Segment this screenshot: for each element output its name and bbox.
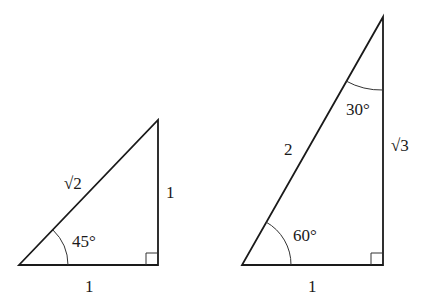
- base-label-right: 1: [308, 277, 317, 296]
- angle-arc-30: [346, 81, 383, 90]
- angle-arc-60: [266, 222, 291, 265]
- vertical-leg-label-left: 1: [166, 183, 175, 202]
- angle-label-45: 45°: [72, 232, 96, 251]
- angle-label-30: 30°: [346, 100, 370, 119]
- base-label-left: 1: [85, 277, 94, 296]
- special-triangles-diagram: √2 1 1 45° 2 √3 1 30° 60°: [0, 0, 436, 305]
- right-angle-marker-left: [146, 253, 158, 265]
- vertical-leg-label-right: √3: [391, 136, 409, 155]
- triangle-30-60-90: 2 √3 1 30° 60°: [242, 17, 409, 296]
- hypotenuse-label-right: 2: [284, 140, 293, 159]
- angle-arc-45: [53, 230, 68, 265]
- angle-label-60: 60°: [293, 226, 317, 245]
- hypotenuse-label-left: √2: [64, 174, 82, 193]
- right-angle-marker-right: [371, 253, 383, 265]
- triangle-45-45-90: √2 1 1 45°: [19, 120, 175, 296]
